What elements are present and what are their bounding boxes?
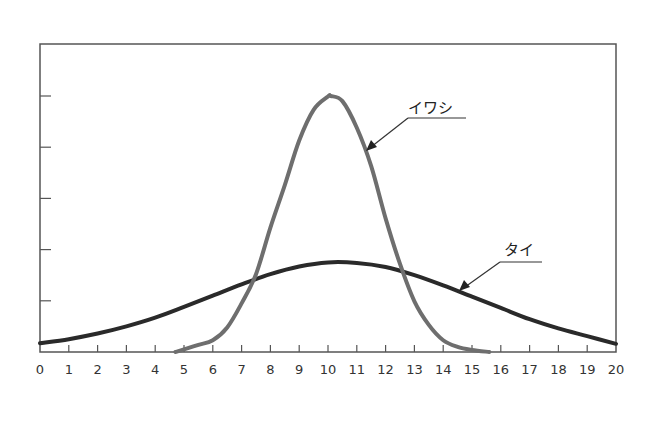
- x-tick-label: 17: [521, 362, 538, 377]
- annotation-iwashi: イワシ: [366, 99, 466, 151]
- x-tick-label: 1: [65, 362, 73, 377]
- arrow-head-iwashi-icon: [366, 140, 377, 151]
- leader-arrow-iwashi: [371, 118, 408, 147]
- x-tick-label: 10: [320, 362, 337, 377]
- x-tick-label: 16: [493, 362, 510, 377]
- x-tick-label: 11: [349, 362, 366, 377]
- plot-frame: [40, 44, 616, 352]
- x-tick-label: 0: [36, 362, 44, 377]
- annotation-tai: タイ: [459, 241, 542, 291]
- x-tick-label: 6: [209, 362, 217, 377]
- x-tick-label: 9: [295, 362, 303, 377]
- x-tick-label: 7: [237, 362, 245, 377]
- y-axis-ticks: [40, 96, 51, 301]
- x-tick-label: 4: [151, 362, 159, 377]
- label-iwashi: イワシ: [408, 99, 453, 117]
- series-line-iwashi: [175, 95, 489, 352]
- x-tick-label: 5: [180, 362, 188, 377]
- x-tick-label: 14: [435, 362, 452, 377]
- x-tick-label: 18: [550, 362, 567, 377]
- x-tick-label: 2: [93, 362, 101, 377]
- arrow-head-tai-icon: [459, 280, 470, 291]
- leader-arrow-tai: [465, 262, 500, 287]
- label-tai: タイ: [504, 241, 534, 259]
- x-tick-label: 15: [464, 362, 481, 377]
- x-axis-labels: 01234567891011121314151617181920: [36, 362, 624, 377]
- x-tick-label: 8: [266, 362, 274, 377]
- series-line-tai: [40, 262, 616, 344]
- x-tick-label: 3: [122, 362, 130, 377]
- x-tick-label: 19: [579, 362, 596, 377]
- x-tick-label: 13: [406, 362, 423, 377]
- x-tick-label: 20: [608, 362, 625, 377]
- chart: 01234567891011121314151617181920 イワシ タイ: [0, 0, 653, 422]
- x-tick-label: 12: [377, 362, 394, 377]
- x-axis-ticks: [69, 345, 587, 352]
